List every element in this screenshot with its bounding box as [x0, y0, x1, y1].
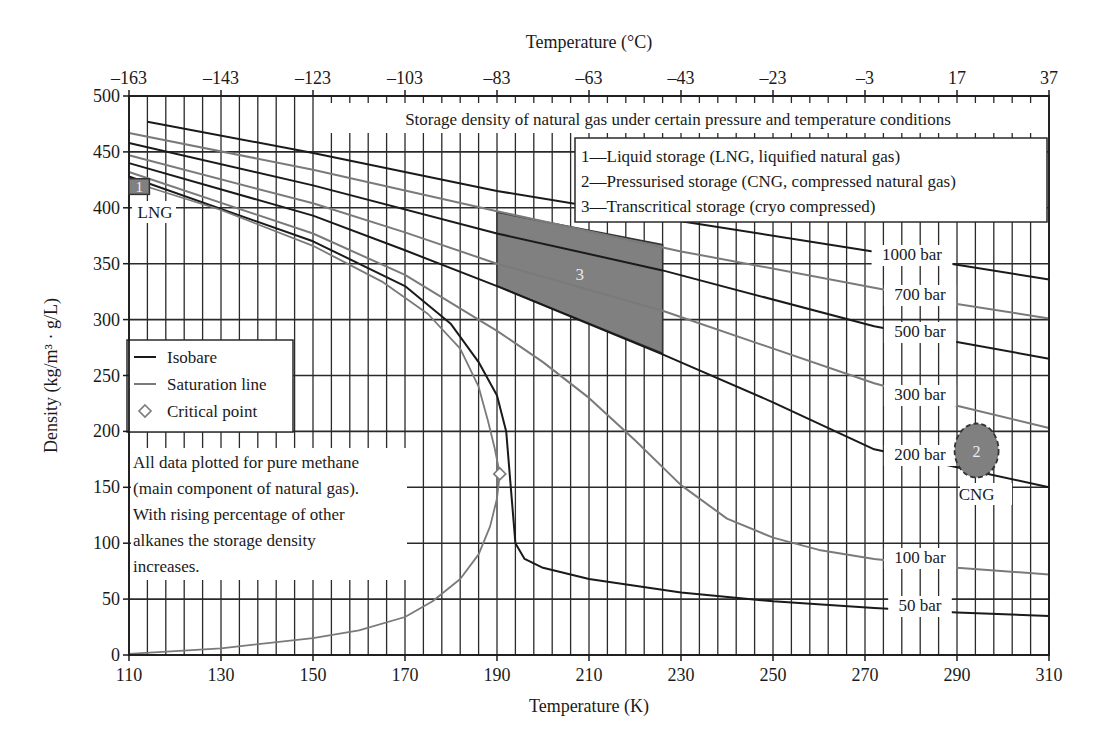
x-tick-label: 230 [668, 665, 695, 685]
x2-tick-label: –163 [110, 68, 147, 88]
note-line: All data plotted for pure methane [133, 453, 359, 472]
y-tick-label: 50 [102, 589, 120, 609]
legend-label: Isobare [167, 348, 217, 367]
critical-point-marker [494, 468, 506, 480]
x-tick-label: 170 [392, 665, 419, 685]
y-tick-label: 0 [111, 645, 120, 665]
x2-tick-label: –23 [759, 68, 787, 88]
legend-label: Critical point [167, 402, 257, 421]
isobar-label: 200 bar [894, 445, 946, 464]
isobar-label: 700 bar [894, 285, 946, 304]
x2-tick-label: –83 [483, 68, 511, 88]
x-tick-label: 190 [484, 665, 511, 685]
x2-axis-title: Temperature (°C) [526, 32, 652, 53]
x2-tick-label: –3 [855, 68, 874, 88]
note-line: With rising percentage of other [133, 505, 345, 524]
isobar-label: 50 bar [899, 596, 942, 615]
x-axis-title: Temperature (K) [529, 696, 649, 717]
isobar-label: 300 bar [894, 385, 946, 404]
x-tick-label: 130 [208, 665, 235, 685]
legend-label: Saturation line [167, 375, 267, 394]
storage-type-3: 3—Transcritical storage (cryo compressed… [581, 197, 875, 216]
x2-tick-label: 17 [948, 68, 966, 88]
note-line: increases. [133, 557, 200, 576]
isobar-label: 1000 bar [882, 245, 942, 264]
y-axis-title: Density (kg/m³ · g/L) [41, 298, 62, 453]
chart-title: Storage density of natural gas under cer… [405, 110, 951, 129]
x-tick-label: 110 [116, 665, 142, 685]
x2-tick-label: –103 [386, 68, 423, 88]
x2-tick-label: –143 [202, 68, 239, 88]
isobar-label: 100 bar [894, 548, 946, 567]
region-1-number: 1 [135, 179, 143, 195]
x2-tick-label: –43 [667, 68, 695, 88]
region-label-3: 3 [576, 265, 585, 284]
y-tick-label: 350 [93, 254, 120, 274]
x-tick-label: 290 [944, 665, 971, 685]
y-tick-label: 300 [93, 310, 120, 330]
storage-type-2: 2—Pressurised storage (CNG, compressed n… [581, 172, 956, 191]
x2-tick-label: –63 [575, 68, 603, 88]
y-tick-label: 100 [93, 533, 120, 553]
isobar-label: 500 bar [894, 322, 946, 341]
note-line: (main component of natural gas). [133, 479, 359, 498]
y-tick-label: 250 [93, 366, 120, 386]
y-tick-label: 400 [93, 198, 120, 218]
storage-type-1: 1—Liquid storage (LNG, liquified natural… [581, 147, 900, 166]
chart: 3 Storage density of natural gas under c… [0, 0, 1111, 755]
cng-label: CNG [959, 485, 995, 504]
y-tick-label: 450 [93, 142, 120, 162]
note-line: alkanes the storage density [133, 531, 316, 550]
lng-label: LNG [138, 203, 173, 222]
x-tick-label: 150 [300, 665, 327, 685]
x-tick-label: 210 [576, 665, 603, 685]
y-tick-label: 150 [93, 477, 120, 497]
x-tick-label: 250 [760, 665, 787, 685]
y-tick-label: 200 [93, 421, 120, 441]
x-tick-label: 270 [852, 665, 879, 685]
x2-tick-label: –123 [294, 68, 331, 88]
region-2-number: 2 [973, 443, 981, 460]
x-tick-label: 310 [1036, 665, 1063, 685]
storage-regions: 3 [497, 212, 663, 353]
y-tick-label: 500 [93, 86, 120, 106]
x2-tick-label: 37 [1040, 68, 1058, 88]
